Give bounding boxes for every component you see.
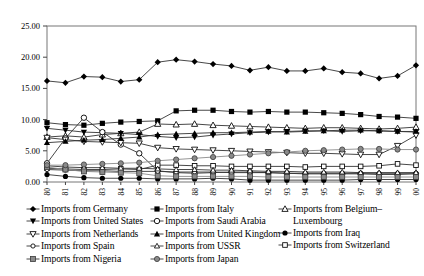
legend-column-3: Imports from Belgium– Luxembourg Imports… xyxy=(278,203,418,273)
svg-text:1991: 1991 xyxy=(246,188,255,196)
legend-item-united-states: Imports from United States xyxy=(26,215,150,227)
legend-item-japan: Imports from Japan xyxy=(150,253,278,265)
chart-legend: Imports from Germany Imports from United… xyxy=(26,203,418,273)
legend-label: Imports from Italy xyxy=(165,203,234,215)
legend-item-germany: Imports from Germany xyxy=(26,203,150,215)
legend-label: Imports from Spain xyxy=(41,240,114,252)
legend-item-netherlands: Imports from Netherlands xyxy=(26,228,150,240)
open-down-triangle-icon xyxy=(26,228,41,239)
svg-text:10.00: 10.00 xyxy=(21,115,40,125)
svg-text:25.00: 25.00 xyxy=(21,21,40,31)
legend-label: Imports from Netherlands xyxy=(41,228,138,240)
plot-area: 0.005.0010.0015.0020.0025.00198019811982… xyxy=(0,0,424,196)
svg-text:1985: 1985 xyxy=(135,188,144,196)
legend-label: Imports from Nigeria xyxy=(41,253,121,265)
svg-text:20.00: 20.00 xyxy=(21,52,40,62)
svg-text:1996: 1996 xyxy=(338,188,347,196)
legend-label: Imports from USSR xyxy=(165,240,241,252)
svg-text:1981: 1981 xyxy=(61,188,70,196)
legend-label-continuation: Luxembourg xyxy=(278,215,418,227)
legend-label: Imports from Iraq xyxy=(293,227,360,239)
svg-text:1995: 1995 xyxy=(320,188,329,196)
filled-down-triangle-icon xyxy=(26,215,41,226)
svg-text:1988: 1988 xyxy=(191,188,200,196)
legend-label: Imports from United Kingdom xyxy=(165,228,280,240)
legend-label: Imports from Saudi Arabia xyxy=(165,215,266,227)
svg-text:1983: 1983 xyxy=(98,188,107,196)
legend-item-belgium-luxembourg: Imports from Belgium– xyxy=(278,203,418,215)
filled-triangle-icon xyxy=(150,228,165,239)
open-square-small-icon xyxy=(278,239,293,250)
legend-item-italy: Imports from Italy xyxy=(150,203,278,215)
legend-label: Imports from Japan xyxy=(165,253,238,265)
filled-diamond-icon xyxy=(26,203,41,214)
svg-text:1989: 1989 xyxy=(209,188,218,196)
legend-item-iraq: Imports from Iraq xyxy=(278,227,418,239)
svg-text:1992: 1992 xyxy=(264,188,273,196)
chart-root: 0.005.0010.0015.0020.0025.00198019811982… xyxy=(0,0,424,276)
legend-label: Imports from Germany xyxy=(41,203,128,215)
svg-text:1990: 1990 xyxy=(228,188,237,196)
legend-item-united-kingdom: Imports from United Kingdom xyxy=(150,228,278,240)
svg-text:1994: 1994 xyxy=(301,188,310,196)
legend-item-nigeria: Imports from Nigeria xyxy=(26,253,150,265)
svg-text:1984: 1984 xyxy=(117,188,126,196)
svg-text:1986: 1986 xyxy=(154,188,163,196)
legend-column-2: Imports from Italy Imports from Saudi Ar… xyxy=(150,203,278,273)
filled-square-icon xyxy=(150,203,165,214)
legend-label: Imports from United States xyxy=(41,215,143,227)
open-circle-small-icon xyxy=(26,240,41,251)
svg-text:1987: 1987 xyxy=(172,188,181,196)
filled-circle-icon xyxy=(278,227,293,238)
legend-label: Imports from Belgium– xyxy=(293,203,382,215)
gray-circle-icon xyxy=(150,253,165,264)
svg-text:0.00: 0.00 xyxy=(25,177,40,187)
open-circle-icon xyxy=(150,215,165,226)
legend-column-1: Imports from Germany Imports from United… xyxy=(26,203,150,273)
svg-text:1982: 1982 xyxy=(80,188,89,196)
gray-square-icon xyxy=(26,253,41,264)
svg-text:5.00: 5.00 xyxy=(25,146,40,156)
legend-item-switzerland: Imports from Switzerland xyxy=(278,239,418,251)
legend-item-ussr: Imports from USSR xyxy=(150,240,278,252)
open-triangle-icon xyxy=(278,203,293,214)
legend-label: Imports from Switzerland xyxy=(293,239,390,251)
svg-text:2000: 2000 xyxy=(412,188,421,196)
legend-item-saudi-arabia: Imports from Saudi Arabia xyxy=(150,215,278,227)
legend-item-spain: Imports from Spain xyxy=(26,240,150,252)
svg-text:1998: 1998 xyxy=(375,188,384,196)
svg-text:1980: 1980 xyxy=(43,188,52,196)
svg-text:1997: 1997 xyxy=(357,188,366,196)
svg-text:15.00: 15.00 xyxy=(21,83,40,93)
open-up-triangle-small-icon xyxy=(150,240,165,251)
svg-text:1993: 1993 xyxy=(283,188,292,196)
line-chart: 0.005.0010.0015.0020.0025.00198019811982… xyxy=(0,0,424,196)
svg-text:1999: 1999 xyxy=(394,188,403,196)
